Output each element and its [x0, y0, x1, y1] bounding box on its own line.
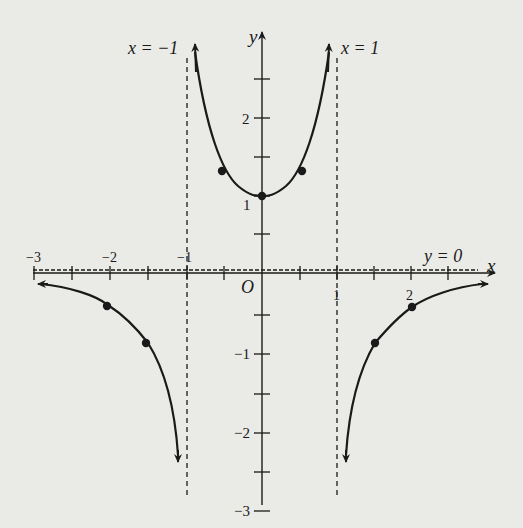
y-axis-label: y [247, 26, 258, 47]
x-tick-label: 2 [406, 288, 413, 303]
asymptote-label-right: x = 1 [340, 38, 379, 58]
origin-label: O [241, 277, 254, 297]
y-tick-label: 1 [243, 197, 251, 213]
middle-branch-arrow-left [195, 44, 196, 72]
y-tick-label: −1 [234, 346, 250, 362]
y-tick-label: 2 [242, 111, 250, 127]
y-tick-label: −2 [234, 425, 250, 441]
function-graph: y x O x = −1 x = 1 y = 0 −3 −2 −1 1 2 2 … [0, 0, 523, 528]
x-tick-label: −2 [102, 250, 117, 265]
x-tick-label: −3 [26, 250, 41, 265]
x-tick-label: 1 [333, 288, 340, 303]
y-tick-label: −3 [234, 503, 250, 519]
asymptote-label-left: x = −1 [127, 38, 178, 58]
x-tick-label: −1 [177, 250, 192, 265]
x-axis-label: x [486, 255, 496, 276]
middle-branch-arrow-right [328, 44, 329, 72]
marked-points [103, 167, 416, 347]
asymptote-label-horizontal: y = 0 [422, 246, 462, 266]
